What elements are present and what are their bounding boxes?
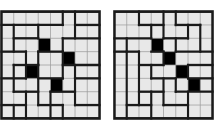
tiling-puzzle-figure: [0, 0, 214, 129]
blocked-cell[interactable]: [176, 65, 188, 78]
blocked-cell[interactable]: [164, 52, 176, 65]
blocked-cell[interactable]: [188, 78, 200, 91]
blocked-cell[interactable]: [26, 65, 38, 78]
puzzle-grid-right[interactable]: [113, 10, 214, 120]
puzzle-grid-left[interactable]: [0, 10, 101, 120]
blocked-cell[interactable]: [38, 38, 50, 51]
blocked-cell[interactable]: [63, 52, 75, 65]
blocked-cell[interactable]: [51, 78, 63, 91]
blocked-cell[interactable]: [151, 38, 163, 51]
